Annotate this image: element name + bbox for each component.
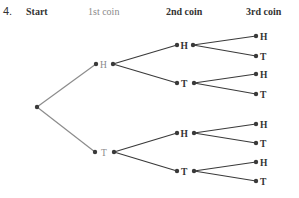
node-label-3rd-4: T [260, 90, 267, 100]
node-label-3rd-3: H [260, 70, 268, 80]
node-label-2nd-t-2: T [181, 167, 188, 177]
node-label-1st-t: T [101, 148, 107, 158]
node-label-3rd-8: T [260, 177, 267, 187]
node-label-2nd-h-1: H [181, 41, 189, 51]
node-label-3rd-6: T [260, 139, 267, 149]
node-label-1st-h: H [100, 60, 107, 70]
node-label-3rd-2: T [260, 52, 267, 62]
node-label-2nd-t-1: T [181, 79, 188, 89]
nodes [35, 34, 258, 183]
node-label-3rd-5: H [260, 120, 268, 130]
node-label-3rd-1: H [260, 32, 268, 42]
node-label-2nd-h-2: H [181, 129, 189, 139]
node-label-3rd-7: H [260, 158, 268, 168]
third-level-branches [193, 36, 256, 181]
second-level-branches [113, 45, 177, 171]
start-node [35, 105, 39, 109]
first-level-branches [37, 64, 96, 152]
tree-diagram: H T H T H T H T H T H T H T [0, 0, 299, 198]
